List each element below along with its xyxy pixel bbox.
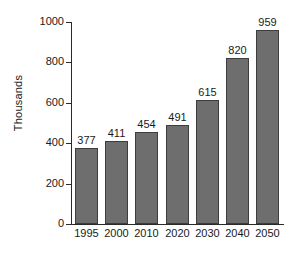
y-axis-tick-label: 600 — [20, 97, 64, 108]
bar-value-label: 959 — [249, 16, 286, 28]
bar-group[interactable]: 820 — [226, 22, 249, 224]
bar[interactable] — [256, 30, 279, 224]
y-axis-tick-label: 1000 — [20, 16, 64, 27]
bar[interactable] — [135, 132, 158, 224]
y-axis-tick-label: 800 — [20, 56, 64, 67]
bar-value-label: 615 — [189, 86, 226, 98]
bar-group[interactable]: 377 — [75, 22, 98, 224]
y-axis-tick-label: 200 — [20, 178, 64, 189]
plot-area: 377411454491615820959 — [71, 22, 284, 224]
y-axis-tick-label: 400 — [20, 137, 64, 148]
bar[interactable] — [196, 100, 219, 224]
bar[interactable] — [226, 58, 249, 224]
bar[interactable] — [105, 141, 128, 224]
y-axis-tick-label-wrap: 400 — [14, 137, 64, 148]
y-axis-tick-label-wrap: 0 — [14, 218, 64, 229]
bar[interactable] — [166, 125, 189, 224]
x-axis-line — [71, 224, 284, 225]
y-axis-tick-label-wrap: 1000 — [14, 16, 64, 27]
bar-group[interactable]: 615 — [196, 22, 219, 224]
y-axis-tick-label-wrap: 200 — [14, 178, 64, 189]
y-axis-tick-label: 0 — [20, 218, 64, 229]
y-axis-tick-label-wrap: 600 — [14, 97, 64, 108]
bar-group[interactable]: 959 — [256, 22, 279, 224]
bar-value-label: 820 — [219, 44, 256, 56]
bar-group[interactable]: 411 — [105, 22, 128, 224]
bar-value-label: 491 — [159, 111, 196, 123]
x-axis-tick-label: 2050 — [248, 227, 287, 240]
x-axis-labels: 1995200020102020203020402050 — [71, 227, 284, 243]
y-axis-tick-label-wrap: 800 — [14, 56, 64, 67]
bar-group[interactable]: 491 — [166, 22, 189, 224]
bar[interactable] — [75, 148, 98, 224]
bar-group[interactable]: 454 — [135, 22, 158, 224]
bar-chart: Thousands 02004006008001000 377411454491… — [0, 0, 294, 256]
